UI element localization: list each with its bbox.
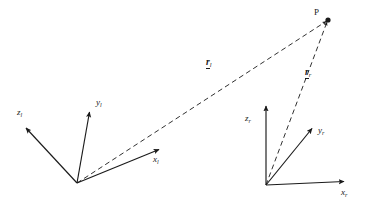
figure-canvas xyxy=(0,0,370,218)
left-frame-x-subscript: l xyxy=(157,159,159,165)
point-p-marker xyxy=(325,17,330,22)
left-frame-axes xyxy=(26,112,159,183)
vector-r-right-line xyxy=(266,22,327,185)
vector-r-left-line xyxy=(77,22,326,184)
left-frame-z-subscript: l xyxy=(21,112,23,118)
right-frame-y-axis-line xyxy=(266,129,312,186)
left-frame-x-axis-line xyxy=(77,150,159,184)
left-frame-y-axis-label: yl xyxy=(96,98,102,108)
right-frame-y-subscript: r xyxy=(322,130,324,136)
left-frame-y-subscript: l xyxy=(100,102,102,108)
left-frame-z-axis-line xyxy=(26,128,77,183)
left-frame-x-axis-label: xl xyxy=(153,155,159,165)
right-frame-x-axis-line xyxy=(266,182,344,186)
point-p-label: P xyxy=(314,8,319,17)
vector-r-left-label: rl xyxy=(206,58,212,69)
vector-r-right-subscript: r xyxy=(309,71,312,78)
left-frame-y-axis-line xyxy=(77,112,90,183)
coordinate-frames-diagram: P zl yl xl zr yr xr rl rr xyxy=(0,0,370,218)
right-frame-x-subscript: r xyxy=(345,192,347,198)
vector-r-right-label: rr xyxy=(305,68,311,79)
right-frame-y-axis-label: yr xyxy=(318,126,324,136)
right-frame-z-axis-label: zr xyxy=(245,114,251,124)
position-vectors xyxy=(77,22,327,186)
left-frame-z-axis-label: zl xyxy=(17,108,22,118)
right-frame-z-subscript: r xyxy=(249,118,251,124)
vector-r-left-subscript: l xyxy=(210,61,212,68)
right-frame-axes xyxy=(266,106,344,185)
right-frame-x-axis-label: xr xyxy=(341,188,347,198)
